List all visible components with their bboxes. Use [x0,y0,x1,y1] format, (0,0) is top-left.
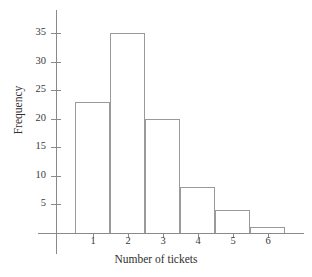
histogram-bar [215,210,250,233]
histogram-bar [180,187,215,233]
x-axis-tick-label: 4 [186,236,210,247]
y-axis-line [56,10,57,254]
y-axis-tick-label: 10 [22,170,46,181]
y-axis-tick [51,119,61,120]
plot-area: 5101520253035 123456 Frequency Number of… [0,0,312,277]
y-axis-tick [51,62,61,63]
x-axis-tick-label: 5 [221,236,245,247]
y-axis-tick-label: 35 [22,27,46,38]
x-axis-title: Number of tickets [0,253,312,265]
y-axis-tick [51,33,61,34]
histogram-bar [75,102,110,233]
y-axis-tick [51,147,61,148]
histogram-bar [145,119,180,233]
y-axis-tick-label: 5 [22,198,46,209]
histogram-bar [250,227,285,233]
y-axis-tick [51,204,61,205]
y-axis-tick-label: 15 [22,141,46,152]
x-axis-tick-label: 2 [116,236,140,247]
y-axis-tick [51,90,61,91]
x-axis-tick-label: 6 [256,236,280,247]
y-axis-tick-label: 30 [22,56,46,67]
x-axis-tick-label: 1 [81,236,105,247]
y-axis-tick-label: 25 [22,84,46,95]
x-axis-line [38,233,304,234]
histogram-figure: 5101520253035 123456 Frequency Number of… [0,0,312,277]
y-axis-tick [51,176,61,177]
x-axis-tick-label: 3 [151,236,175,247]
y-axis-title: Frequency [12,50,24,170]
y-axis-tick-label: 20 [22,113,46,124]
histogram-bar [110,33,145,233]
